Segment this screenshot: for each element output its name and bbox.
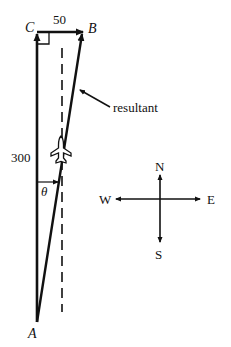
label-theta: θ — [41, 184, 48, 199]
airplane-icon — [51, 136, 71, 163]
label-point-b: B — [88, 21, 97, 36]
diagram-canvas: C B A 50 300 resultant θ N S E W — [0, 0, 231, 347]
compass-w: W — [99, 192, 112, 207]
compass-n: N — [155, 159, 165, 174]
label-east-50: 50 — [53, 12, 66, 27]
compass-rose — [116, 175, 200, 242]
resultant-pointer — [80, 90, 110, 107]
label-north-300: 300 — [11, 150, 31, 165]
right-angle-marker — [37, 32, 49, 44]
label-point-c: C — [25, 20, 35, 35]
label-resultant: resultant — [113, 100, 158, 115]
vector-diagram: C B A 50 300 resultant θ N S E W — [0, 0, 231, 347]
compass-s: S — [155, 247, 162, 262]
vector-resultant — [37, 34, 82, 322]
label-point-a: A — [27, 326, 37, 341]
compass-e: E — [207, 192, 215, 207]
